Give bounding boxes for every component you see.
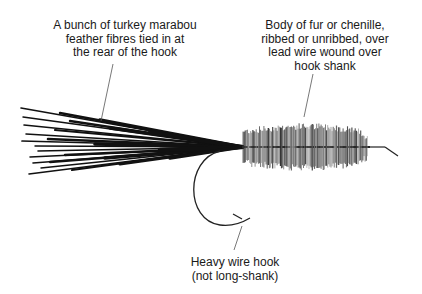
tail-label-line: feather fibres tied in at (50, 33, 200, 47)
body-label-line: hook shank (250, 60, 400, 74)
tail-label: A bunch of turkey marabou feather fibres… (50, 19, 200, 60)
fly-diagram: A bunch of turkey marabou feather fibres… (0, 0, 422, 294)
tail-label-line: A bunch of turkey marabou (50, 19, 200, 33)
body-label-line: Body of fur or chenille, (250, 19, 400, 33)
body-label-line: ribbed or unribbed, over (250, 33, 400, 47)
body-label-line: lead wire wound over (250, 46, 400, 60)
hook-label-line: Heavy wire hook (180, 256, 290, 270)
body-label: Body of fur or chenille, ribbed or unrib… (250, 19, 400, 73)
tail-fibres (21, 108, 242, 174)
hook-label-line: (not long-shank) (180, 270, 290, 284)
hook-eye (370, 147, 398, 156)
tail-label-line: the rear of the hook (50, 46, 200, 60)
hook-bend (194, 151, 250, 225)
hook-label: Heavy wire hook (not long-shank) (180, 256, 290, 283)
